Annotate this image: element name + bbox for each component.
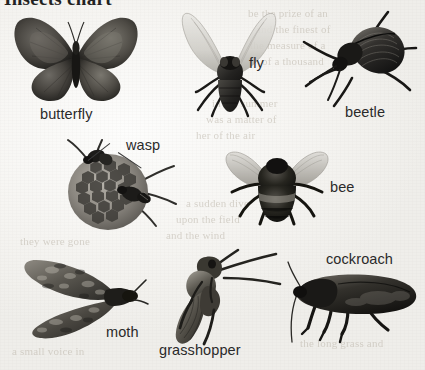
label-butterfly: butterfly	[40, 106, 92, 122]
insect-chart-figure: be the prize of an and the finest of the…	[0, 0, 425, 370]
label-moth: moth	[106, 324, 139, 340]
specimen-wasp	[52, 140, 182, 232]
ghost-text-line: a small voice in	[12, 344, 85, 360]
label-beetle: beetle	[345, 104, 385, 120]
ghost-text-line: her of the air	[196, 128, 255, 144]
label-cockroach: cockroach	[326, 251, 393, 267]
label-wasp: wasp	[126, 137, 160, 153]
specimen-cockroach	[282, 262, 422, 348]
specimen-fly	[176, 6, 286, 118]
label-grasshopper: grasshopper	[159, 342, 241, 358]
specimen-grasshopper	[168, 248, 298, 348]
specimen-beetle	[296, 8, 422, 108]
ghost-text-line: they were gone	[20, 234, 90, 250]
label-bee: bee	[330, 179, 355, 195]
specimen-bee	[216, 146, 338, 226]
specimen-butterfly	[10, 8, 142, 108]
label-fly: fly	[249, 55, 264, 71]
